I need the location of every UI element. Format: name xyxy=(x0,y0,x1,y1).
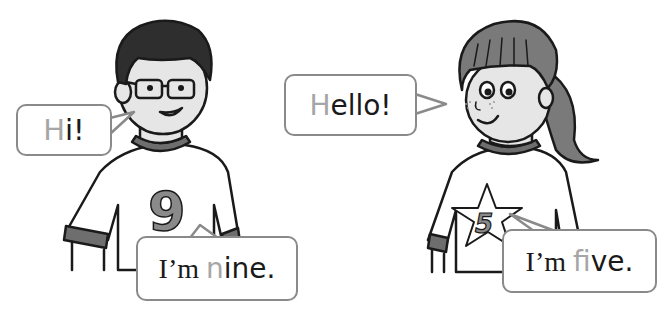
speech-bubble-hi: Hi! xyxy=(16,104,112,156)
bubble-text-rest: ive. xyxy=(591,245,634,278)
highlight-letter: H xyxy=(309,89,330,122)
bubble-text-rest: i! xyxy=(65,113,85,147)
highlight-letter: f xyxy=(573,245,591,278)
bubble-text-rest: ello! xyxy=(330,89,391,122)
bubble-text-nine: I’m nine. xyxy=(159,252,276,285)
speech-bubble-nine: I’m nine. xyxy=(136,236,298,301)
illustration-scene: 9 xyxy=(0,0,668,312)
bubble-tail-hello xyxy=(415,94,446,114)
bubble-text-five: I’m five. xyxy=(526,245,634,278)
bubble-text-hello: Hello! xyxy=(309,89,391,122)
bubble-text-rest: ine. xyxy=(224,252,276,285)
shirt-number-nine: 9 xyxy=(148,180,186,243)
shirt-number-five: 5 xyxy=(475,209,493,239)
speech-bubble-five: I’m five. xyxy=(502,229,657,293)
bubble-text-prefix: I’m xyxy=(526,246,573,277)
bubble-text-prefix: I’m xyxy=(159,253,206,284)
highlight-letter: n xyxy=(206,252,224,285)
speech-bubble-hello: Hello! xyxy=(284,74,417,136)
bubble-tail-hi xyxy=(110,112,134,134)
highlight-letter: H xyxy=(43,113,65,147)
bubble-text-hi: Hi! xyxy=(43,113,85,147)
